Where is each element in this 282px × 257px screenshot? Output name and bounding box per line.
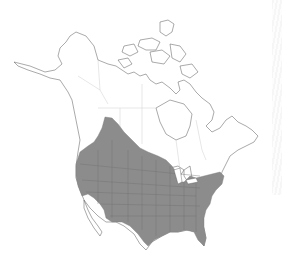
map-svg (0, 0, 282, 257)
side-decoration-strip (272, 0, 282, 195)
range-map (0, 0, 282, 257)
